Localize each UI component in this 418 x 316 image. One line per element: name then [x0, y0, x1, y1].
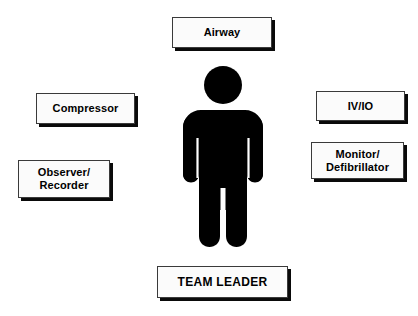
role-label-compressor: Compressor — [53, 102, 119, 115]
role-box-observer-recorder[interactable]: Observer/ Recorder — [18, 160, 110, 198]
role-label-airway: Airway — [204, 26, 241, 39]
person-figure-icon — [175, 60, 271, 250]
role-box-airway[interactable]: Airway — [172, 17, 272, 48]
role-box-monitor-defibrillator[interactable]: Monitor/ Defibrillator — [311, 142, 404, 179]
role-box-team-leader[interactable]: TEAM LEADER — [157, 266, 288, 298]
role-label-iv-io: IV/IO — [348, 100, 374, 113]
role-label-monitor-defibrillator: Monitor/ Defibrillator — [326, 148, 389, 174]
role-label-observer-recorder: Observer/ Recorder — [38, 166, 90, 192]
role-box-compressor[interactable]: Compressor — [36, 93, 135, 124]
role-label-team-leader: TEAM LEADER — [178, 275, 268, 289]
role-box-iv-io[interactable]: IV/IO — [316, 91, 405, 121]
team-roles-diagram: Airway Compressor Observer/ Recorder IV/… — [0, 0, 418, 316]
